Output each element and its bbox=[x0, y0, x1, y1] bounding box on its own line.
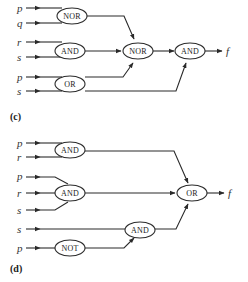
gate-not: NOT bbox=[55, 240, 85, 256]
input-p: p bbox=[16, 2, 23, 14]
gate-and-2: AND bbox=[55, 185, 85, 201]
svg-text:AND: AND bbox=[61, 47, 79, 56]
svg-text:AND: AND bbox=[181, 47, 199, 56]
svg-text:OR: OR bbox=[186, 189, 198, 198]
input-r: r bbox=[17, 151, 22, 163]
input-r: r bbox=[17, 187, 22, 199]
svg-text:NOR: NOR bbox=[129, 47, 147, 56]
svg-text:OR: OR bbox=[64, 80, 76, 89]
gate-or-1: OR bbox=[55, 76, 85, 92]
input-s: s bbox=[17, 85, 21, 97]
input-p: p bbox=[16, 170, 23, 182]
gate-nor-1: NOR bbox=[57, 8, 87, 24]
svg-text:AND: AND bbox=[61, 189, 79, 198]
input-r: r bbox=[17, 36, 22, 48]
caption-c: (c) bbox=[10, 111, 21, 123]
circuit-d: p r p r s s p AND bbox=[10, 137, 233, 275]
input-p: p bbox=[16, 137, 23, 149]
logic-circuits-figure: p q r s p s NOR bbox=[0, 0, 248, 282]
input-s: s bbox=[17, 51, 21, 63]
svg-text:AND: AND bbox=[131, 226, 149, 235]
gate-and-3: AND bbox=[125, 222, 155, 238]
input-p: p bbox=[16, 242, 23, 254]
input-p: p bbox=[16, 71, 23, 83]
input-q: q bbox=[17, 17, 23, 29]
gate-or: OR bbox=[177, 185, 207, 201]
gate-and-1: AND bbox=[55, 142, 85, 158]
gate-and-2: AND bbox=[175, 43, 205, 59]
input-s: s bbox=[17, 204, 21, 216]
svg-text:NOT: NOT bbox=[61, 244, 78, 253]
svg-text:AND: AND bbox=[61, 146, 79, 155]
gate-nor-2: NOR bbox=[123, 43, 153, 59]
output-f: f bbox=[228, 187, 233, 199]
output-f: f bbox=[226, 45, 231, 57]
circuit-c: p q r s p s NOR bbox=[10, 2, 231, 123]
caption-d: (d) bbox=[10, 263, 22, 275]
input-s: s bbox=[17, 223, 21, 235]
svg-text:NOR: NOR bbox=[63, 12, 81, 21]
gate-and-1: AND bbox=[55, 43, 85, 59]
